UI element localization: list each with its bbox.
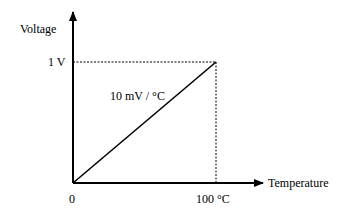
y-max-tick-label: 1 V [48,55,66,69]
y-axis-label: Voltage [20,22,56,36]
x-max-tick-label: 100 °C [196,192,230,206]
slope-label: 10 mV / °C [110,89,165,103]
voltage-temperature-diagram: Voltage 1 V 10 mV / °C 0 100 °C Temperat… [0,0,355,219]
x-axis-label: Temperature [268,176,328,190]
x-origin-tick-label: 0 [69,192,75,206]
transfer-line [73,62,216,183]
